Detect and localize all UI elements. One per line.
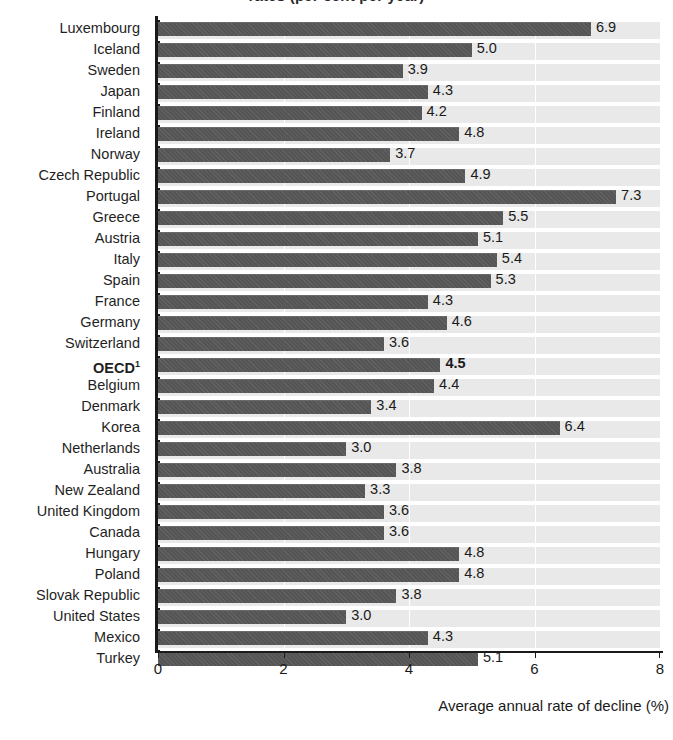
bar-value-label: 4.3 bbox=[433, 83, 453, 98]
category-label: Luxembourg bbox=[0, 18, 148, 39]
bar-value-label: 4.8 bbox=[464, 545, 484, 560]
category-label: Greece bbox=[0, 207, 148, 228]
category-label: New Zealand bbox=[0, 480, 148, 501]
category-label: Turkey bbox=[0, 648, 148, 669]
bar bbox=[158, 421, 560, 435]
category-label: Netherlands bbox=[0, 438, 148, 459]
bar-row: 3.4 bbox=[158, 396, 660, 417]
bar-value-label: 3.6 bbox=[389, 335, 409, 350]
category-label: Japan bbox=[0, 81, 148, 102]
bar bbox=[158, 148, 390, 162]
category-label: Czech Republic bbox=[0, 165, 148, 186]
bar-value-label: 3.8 bbox=[401, 461, 421, 476]
bar-row: 3.3 bbox=[158, 480, 660, 501]
bar bbox=[158, 85, 428, 99]
bar-value-label: 4.4 bbox=[439, 377, 459, 392]
bar-value-label: 7.3 bbox=[621, 188, 641, 203]
bar bbox=[158, 358, 440, 372]
category-label-column: LuxembourgIcelandSwedenJapanFinlandIrela… bbox=[0, 18, 148, 669]
bar bbox=[158, 589, 396, 603]
bar-row: 3.0 bbox=[158, 606, 660, 627]
category-label: Italy bbox=[0, 249, 148, 270]
chart-title-clipped: rates (per cent per year) bbox=[0, 0, 673, 14]
bar-row: 4.8 bbox=[158, 123, 660, 144]
bar-value-label: 4.2 bbox=[427, 104, 447, 119]
bar bbox=[158, 568, 459, 582]
bar-value-label: 5.5 bbox=[508, 209, 528, 224]
bar-value-label: 5.3 bbox=[496, 272, 516, 287]
category-label: Portugal bbox=[0, 186, 148, 207]
bar-row: 4.6 bbox=[158, 312, 660, 333]
bar bbox=[158, 484, 365, 498]
bar-row: 4.5 bbox=[158, 354, 660, 375]
bar-row: 3.8 bbox=[158, 459, 660, 480]
bar-value-label: 6.9 bbox=[596, 20, 616, 35]
bar-value-label: 3.9 bbox=[408, 62, 428, 77]
category-label: Australia bbox=[0, 459, 148, 480]
bar-value-label: 4.8 bbox=[464, 566, 484, 581]
category-label: United Kingdom bbox=[0, 501, 148, 522]
category-label: Ireland bbox=[0, 123, 148, 144]
category-label: Mexico bbox=[0, 627, 148, 648]
bar-row: 3.8 bbox=[158, 585, 660, 606]
bar-row: 3.6 bbox=[158, 522, 660, 543]
x-tick-8 bbox=[659, 651, 660, 658]
x-tick-4 bbox=[409, 651, 410, 658]
bar-row: 4.9 bbox=[158, 165, 660, 186]
bar-value-label: 6.4 bbox=[565, 419, 585, 434]
bar-row: 4.3 bbox=[158, 627, 660, 648]
category-label: Germany bbox=[0, 312, 148, 333]
y-axis-line bbox=[155, 16, 158, 653]
category-label: Sweden bbox=[0, 60, 148, 81]
bar bbox=[158, 22, 591, 36]
category-label: Poland bbox=[0, 564, 148, 585]
footnote-marker: 1 bbox=[135, 359, 140, 369]
category-label: OECD1 bbox=[0, 354, 148, 375]
bar-value-label: 4.5 bbox=[445, 356, 465, 371]
bar bbox=[158, 43, 472, 57]
bar-row: 4.8 bbox=[158, 543, 660, 564]
x-tick-6 bbox=[535, 651, 536, 658]
bar bbox=[158, 169, 465, 183]
bar-value-label: 3.6 bbox=[389, 503, 409, 518]
bar bbox=[158, 253, 497, 267]
bar-value-label: 4.6 bbox=[452, 314, 472, 329]
category-label: Switzerland bbox=[0, 333, 148, 354]
bar-row: 6.9 bbox=[158, 18, 660, 39]
bar-row: 3.6 bbox=[158, 333, 660, 354]
bar bbox=[158, 547, 459, 561]
category-label: France bbox=[0, 291, 148, 312]
category-label: Slovak Republic bbox=[0, 585, 148, 606]
bar bbox=[158, 232, 478, 246]
bar bbox=[158, 379, 434, 393]
bar-row: 5.1 bbox=[158, 228, 660, 249]
bar-value-label: 3.0 bbox=[351, 440, 371, 455]
bar bbox=[158, 274, 491, 288]
bar bbox=[158, 442, 346, 456]
bar-value-label: 3.6 bbox=[389, 524, 409, 539]
bar-row: 4.3 bbox=[158, 291, 660, 312]
bar-value-label: 5.0 bbox=[477, 41, 497, 56]
x-tick-label-4: 4 bbox=[405, 660, 413, 677]
bar-row: 5.4 bbox=[158, 249, 660, 270]
bar-row: 7.3 bbox=[158, 186, 660, 207]
bar bbox=[158, 526, 384, 540]
category-label: Hungary bbox=[0, 543, 148, 564]
bar-row: 3.7 bbox=[158, 144, 660, 165]
x-tick-label-8: 8 bbox=[656, 660, 664, 677]
bar-row: 4.2 bbox=[158, 102, 660, 123]
x-tick-label-2: 2 bbox=[279, 660, 287, 677]
bar-row: 4.4 bbox=[158, 375, 660, 396]
bar-row: 3.6 bbox=[158, 501, 660, 522]
bar-row: 5.5 bbox=[158, 207, 660, 228]
bar bbox=[158, 400, 371, 414]
bar bbox=[158, 463, 396, 477]
bar-value-label: 4.9 bbox=[470, 167, 490, 182]
bar-chart: rates (per cent per year) LuxembourgIcel… bbox=[0, 0, 673, 740]
bar bbox=[158, 127, 459, 141]
chart-title: rates (per cent per year) bbox=[0, 0, 673, 4]
plot-area: 6.95.03.94.34.24.83.74.97.35.55.15.45.34… bbox=[158, 18, 660, 651]
x-tick-2 bbox=[284, 651, 285, 658]
bar-value-label: 4.8 bbox=[464, 125, 484, 140]
bar bbox=[158, 610, 346, 624]
